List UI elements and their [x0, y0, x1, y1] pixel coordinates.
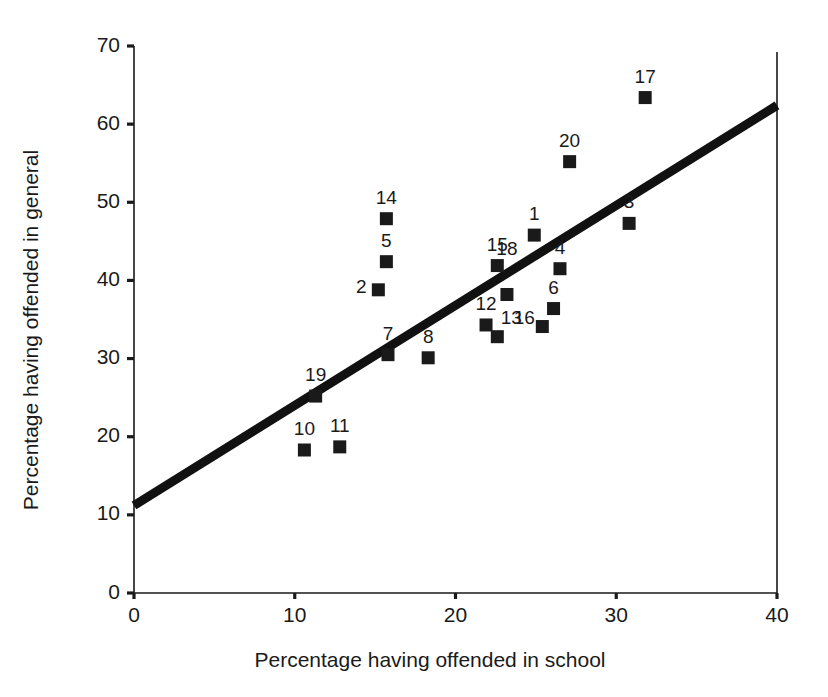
- y-tick-label-70: 70: [97, 33, 120, 56]
- data-point-marker-17: [639, 91, 652, 104]
- data-point-label-2: 2: [356, 276, 367, 297]
- data-point-label-1: 1: [529, 203, 540, 224]
- scatter-chart-figure: 010203040506070 010203040 12345678101112…: [0, 0, 828, 697]
- data-point-marker-2: [372, 283, 385, 296]
- x-tick-label-20: 20: [444, 603, 467, 626]
- data-point-label-6: 6: [548, 277, 559, 298]
- data-point-marker-12: [480, 318, 493, 331]
- data-point-marker-6: [547, 302, 560, 315]
- data-point-label-19: 19: [305, 364, 326, 385]
- y-tick-label-30: 30: [97, 345, 120, 368]
- x-axis-title: Percentage having offended in school: [254, 648, 605, 671]
- x-tick-label-40: 40: [765, 603, 788, 626]
- data-point-label-12: 12: [475, 293, 496, 314]
- data-point-marker-14: [380, 212, 393, 225]
- data-point-label-4: 4: [555, 237, 566, 258]
- data-point-marker-5: [380, 255, 393, 268]
- data-point-label-16: 16: [514, 307, 535, 328]
- data-point-label-20: 20: [559, 130, 580, 151]
- data-point-marker-13: [491, 330, 504, 343]
- data-point-label-14: 14: [376, 187, 398, 208]
- axis-spines: [134, 46, 777, 593]
- data-point-label-11: 11: [330, 415, 350, 436]
- data-point-label-7: 7: [383, 323, 394, 344]
- data-point-marker-3: [623, 217, 636, 230]
- chart-canvas: 010203040506070 010203040 12345678101112…: [0, 0, 828, 697]
- data-point-label-18: 18: [496, 238, 517, 259]
- y-tick-label-20: 20: [97, 423, 120, 446]
- y-tick-label-50: 50: [97, 189, 120, 212]
- x-tick-label-30: 30: [605, 603, 628, 626]
- x-tick-label-10: 10: [283, 603, 306, 626]
- y-tick-label-10: 10: [97, 501, 120, 524]
- data-point-marker-15: [491, 259, 504, 272]
- trend-line: [134, 105, 777, 505]
- data-point-marker-18: [500, 288, 513, 301]
- data-point-label-3: 3: [624, 191, 635, 212]
- data-point-label-17: 17: [635, 66, 656, 87]
- axis-frame: [134, 46, 777, 593]
- data-point-marker-16: [536, 320, 549, 333]
- data-point-marker-8: [422, 351, 435, 364]
- x-axis-ticks: 010203040: [128, 593, 789, 626]
- data-point-label-10: 10: [294, 418, 315, 439]
- x-tick-label-0: 0: [128, 603, 140, 626]
- data-point-label-8: 8: [423, 326, 434, 347]
- data-point-marker-20: [563, 155, 576, 168]
- y-axis-ticks: 010203040506070: [97, 33, 134, 603]
- data-point-label-5: 5: [381, 230, 392, 251]
- y-tick-label-40: 40: [97, 267, 120, 290]
- y-tick-label-60: 60: [97, 111, 120, 134]
- data-point-marker-4: [553, 262, 566, 275]
- data-point-marker-19: [309, 390, 322, 403]
- data-point-marker-7: [381, 348, 394, 361]
- y-tick-label-0: 0: [108, 580, 120, 603]
- data-point-marker-11: [333, 440, 346, 453]
- data-points: 123456781011121314151617181920: [294, 66, 656, 457]
- data-point-marker-10: [298, 444, 311, 457]
- data-point-marker-1: [528, 229, 541, 242]
- y-axis-title: Percentage having offended in general: [19, 150, 42, 510]
- trend-line-path: [134, 105, 777, 505]
